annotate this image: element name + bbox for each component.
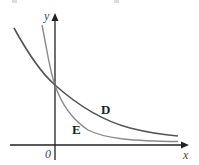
curve-d-label: D	[101, 103, 110, 116]
graph-canvas	[0, 0, 199, 165]
origin-label: 0	[45, 148, 51, 160]
x-axis-label: x	[183, 149, 188, 161]
curve-e-label: E	[72, 123, 81, 136]
y-axis-label: y	[44, 10, 49, 22]
y-axis-arrow-icon	[52, 13, 59, 21]
curve-e	[42, 25, 178, 142]
curve-d	[14, 28, 178, 136]
